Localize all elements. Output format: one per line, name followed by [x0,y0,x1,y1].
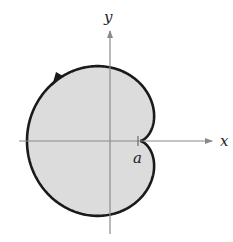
cusp-label: a [133,149,142,167]
cardioid-diagram: y x a [0,0,233,242]
y-axis-label: y [103,8,113,26]
x-axis-label: x [220,132,229,150]
